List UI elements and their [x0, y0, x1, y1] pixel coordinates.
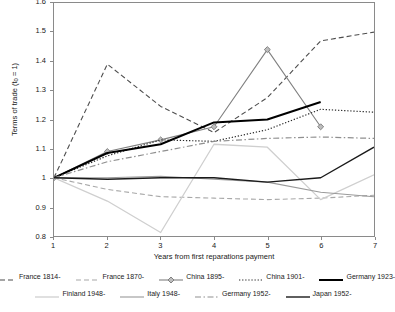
x-tick-label: 5 [266, 242, 270, 250]
x-tick-mark [214, 237, 215, 240]
y-tick-label: 0.8 [36, 233, 46, 241]
legend-label: Italy 1948- [147, 289, 180, 298]
legend-item[interactable]: Germany 1952- [194, 288, 271, 298]
legend-swatch [238, 271, 264, 281]
x-tick-label: 6 [319, 242, 323, 250]
legend-item[interactable]: France 1870- [75, 271, 145, 281]
x-tick-label: 2 [105, 242, 109, 250]
legend-item[interactable]: Finland 1948- [34, 288, 105, 298]
legend-swatch [158, 271, 184, 281]
series-line [54, 147, 374, 182]
legend-swatch [119, 288, 145, 298]
legend-item[interactable]: Japan 1952- [285, 288, 352, 298]
y-tick-label: 1.5 [36, 27, 46, 35]
x-tick-mark [160, 237, 161, 240]
y-tick-label: 1.6 [36, 0, 46, 6]
legend-label: France 1870- [103, 272, 145, 281]
x-tick-label: 1 [51, 242, 55, 250]
series-line [54, 109, 374, 177]
legend-swatch [34, 288, 60, 298]
y-tick-label: 1.2 [36, 116, 46, 124]
x-tick-mark [321, 237, 322, 240]
x-axis: 1234567 [53, 237, 375, 253]
legend-swatch [0, 271, 17, 281]
legend-label: Germany 1923- [346, 272, 395, 281]
series-marker-diamond [158, 137, 164, 143]
legend-item[interactable]: China 1901- [238, 271, 304, 281]
series-layer [54, 3, 374, 236]
y-axis-title-subscript: 0 [13, 78, 19, 81]
chart-legend: France 1814-France 1870-China 1895-China… [0, 268, 386, 312]
x-tick-label: 4 [212, 242, 216, 250]
y-axis-title-main: Terms of trade (t [10, 81, 19, 136]
x-tick-mark [53, 237, 54, 240]
legend-label: France 1814- [19, 272, 61, 281]
legend-swatch [285, 288, 311, 298]
y-axis-title: Terms of trade (t0 = 1) [10, 45, 19, 155]
legend-label: China 1895- [186, 272, 224, 281]
y-axis-title-tail: = 1) [10, 63, 19, 78]
legend-item[interactable]: China 1895- [158, 271, 224, 281]
x-tick-label: 7 [373, 242, 377, 250]
series-line [54, 178, 374, 200]
legend-row: Finland 1948-Italy 1948-Germany 1952-Jap… [0, 285, 386, 301]
legend-label: Finland 1948- [62, 289, 105, 298]
x-tick-mark [375, 237, 376, 240]
series-line [54, 102, 321, 178]
y-tick-label: 0.9 [36, 204, 46, 212]
legend-label: Japan 1952- [313, 289, 352, 298]
x-axis-title: Years from first reparations payment [53, 252, 375, 261]
legend-swatch [318, 271, 344, 281]
legend-swatch [194, 288, 220, 298]
legend-label: China 1901- [266, 272, 304, 281]
x-tick-label: 3 [158, 242, 162, 250]
x-tick-mark [268, 237, 269, 240]
y-tick-label: 1.3 [36, 86, 46, 94]
legend-item[interactable]: Italy 1948- [119, 288, 180, 298]
legend-item[interactable]: Germany 1923- [318, 271, 395, 281]
y-tick-label: 1.4 [36, 57, 46, 65]
x-tick-mark [107, 237, 108, 240]
y-tick-label: 1 [42, 174, 46, 182]
y-tick-label: 1.1 [36, 145, 46, 153]
legend-label: Germany 1952- [222, 289, 271, 298]
series-line [54, 137, 374, 178]
legend-row: France 1814-France 1870-China 1895-China… [0, 268, 386, 284]
legend-swatch [75, 271, 101, 281]
legend-item[interactable]: France 1814- [0, 271, 61, 281]
plot-area [53, 2, 375, 237]
y-axis: Terms of trade (t0 = 1) 0.80.911.11.21.3… [0, 0, 53, 239]
